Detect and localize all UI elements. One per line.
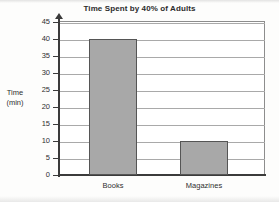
tick-mark: [53, 107, 59, 108]
tick-label: 20: [28, 102, 50, 111]
tick-mark: [53, 141, 59, 142]
tick-mark: [53, 39, 59, 40]
scan-shading-bottom: [0, 196, 279, 202]
value-axis-line: [58, 17, 60, 177]
bar-magazines: [180, 141, 228, 175]
axis-arrow-icon: [55, 13, 63, 19]
value-axis-title: Time (min): [2, 88, 28, 107]
tick-label: 5: [28, 153, 50, 162]
tick-mark: [53, 56, 59, 57]
tick-label: 0: [28, 170, 50, 179]
tick-label: 10: [28, 136, 50, 145]
tick-label: 40: [28, 34, 50, 43]
chart-title: Time Spent by 40% of Adults: [0, 4, 279, 13]
gridline: [59, 23, 265, 24]
tick-mark: [53, 73, 59, 74]
tick-mark: [53, 175, 59, 176]
tick-mark: [53, 124, 59, 125]
tick-label: 25: [28, 85, 50, 94]
category-label-magazines: Magazines: [174, 181, 234, 190]
value-axis-title-line-1: Time: [2, 88, 28, 98]
tick-label: 30: [28, 68, 50, 77]
value-axis-title-line-2: (min): [2, 98, 28, 108]
tick-label: 35: [28, 51, 50, 60]
tick-label: 45: [28, 17, 50, 26]
tick-mark: [53, 22, 59, 23]
scan-shading-top: [0, 0, 279, 3]
tick-mark: [53, 158, 59, 159]
tick-label: 15: [28, 119, 50, 128]
category-label-books: Books: [83, 181, 143, 190]
chart-figure: Time Spent by 40% of Adults Time (min) 0…: [0, 0, 279, 202]
tick-mark: [53, 90, 59, 91]
bar-books: [89, 39, 137, 175]
